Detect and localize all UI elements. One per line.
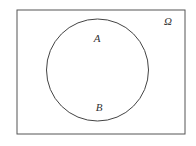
universe-rectangle [17, 10, 185, 134]
label-universe-omega: Ω [164, 15, 172, 27]
label-set-b: B [96, 101, 103, 113]
venn-diagram: A B Ω [0, 0, 196, 146]
label-set-a: A [93, 32, 101, 44]
